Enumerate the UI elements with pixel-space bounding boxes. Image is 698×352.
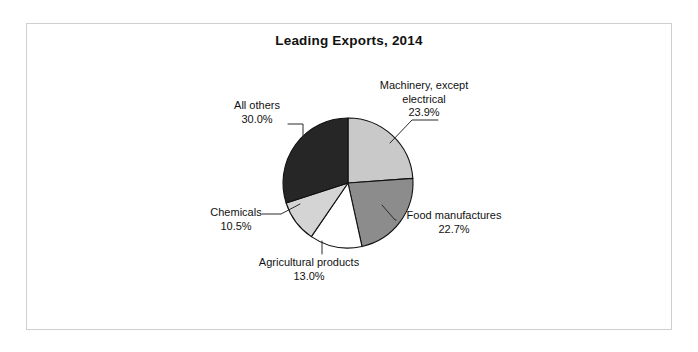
slice-label-all-others-line1: All others <box>214 99 300 113</box>
slice-label-agricultural-products-line1: Agricultural products <box>243 256 375 270</box>
slice-label-chemicals-line1: Chemicals <box>196 206 276 220</box>
slice-label-all-others: All others 30.0% <box>214 99 300 126</box>
slice-label-food-manufactures-line1: Food manufactures <box>398 209 510 223</box>
slice-label-machinery-line1: Machinery, except <box>365 79 483 93</box>
slice-value-food-manufactures: 22.7% <box>398 223 510 237</box>
pie-chart-figure: Leading Exports, 2014 Machinery, except … <box>0 0 698 352</box>
pie-graphic <box>0 0 698 352</box>
pie-slice-machinery-except-electrical <box>348 118 413 183</box>
leader-line-machinery <box>390 120 438 143</box>
leader-line-all-others <box>288 124 303 139</box>
pie-slices <box>283 118 413 248</box>
slice-value-machinery: 23.9% <box>365 106 483 120</box>
slice-label-machinery: Machinery, except electrical 23.9% <box>365 79 483 120</box>
slice-value-agricultural-products: 13.0% <box>243 270 375 284</box>
slice-value-all-others: 30.0% <box>214 113 300 127</box>
slice-label-agricultural-products: Agricultural products 13.0% <box>243 256 375 283</box>
slice-label-food-manufactures: Food manufactures 22.7% <box>398 209 510 236</box>
slice-label-machinery-line2: electrical <box>365 93 483 107</box>
slice-label-chemicals: Chemicals 10.5% <box>196 206 276 233</box>
slice-value-chemicals: 10.5% <box>196 220 276 234</box>
